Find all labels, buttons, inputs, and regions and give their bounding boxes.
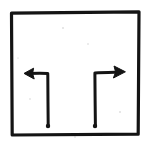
- scan-speck: [29, 98, 30, 99]
- scan-speck: [119, 111, 121, 113]
- right-arrow-tail-dot: [93, 124, 97, 128]
- scan-speck: [17, 57, 18, 58]
- scan-speck: [87, 43, 88, 44]
- scan-speck: [74, 136, 75, 137]
- paper-background: [0, 0, 151, 147]
- right-arrow-stem: [95, 74, 96, 126]
- right-arrow-turn-segment: [95, 72, 117, 73]
- left-arrow-tail-dot: [46, 124, 50, 128]
- scan-speck: [62, 27, 64, 29]
- hand-drawn-diagram: [0, 0, 151, 147]
- sketch-canvas: [0, 0, 151, 147]
